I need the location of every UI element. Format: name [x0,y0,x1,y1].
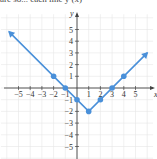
data-point [74,97,80,103]
x-tick-label: −3 [38,90,47,99]
y-tick-label: 3 [69,49,73,58]
x-tick-label: 5 [134,90,138,99]
x-tick-label: −4 [26,90,35,99]
x-tick-label: 4 [122,90,126,99]
absolute-value-graph: −5−4−3−2−11234554321−1−2−3−4−5xy [0,0,157,159]
x-tick-label: 1 [87,90,91,99]
x-tick-label: −2 [49,90,58,99]
y-tick-label: −2 [64,107,73,116]
y-tick-label: 5 [69,26,73,35]
y-tick-label: 2 [69,61,73,70]
y-tick-label: −3 [64,119,73,128]
data-point [121,74,127,80]
y-tick-label: −4 [64,131,73,140]
data-point [51,74,57,80]
data-point [86,109,92,115]
y-tick-label: −5 [64,143,73,152]
x-axis-label: x [153,90,157,99]
x-tick-label: 3 [110,90,114,99]
y-tick-label: −1 [64,96,73,105]
y-tick-label: 4 [69,37,73,46]
x-tick-label: −5 [14,90,23,99]
data-point [98,97,104,103]
y-tick-label: 1 [69,72,73,81]
data-point [109,85,115,91]
y-axis-label: y [69,9,74,18]
data-point [63,85,69,91]
y-axis-arrow-icon [75,12,79,17]
